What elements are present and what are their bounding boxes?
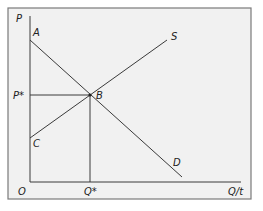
point-c-label: C — [33, 138, 40, 149]
diagram-frame — [8, 8, 251, 199]
quantity-star-label: Q* — [84, 186, 97, 197]
point-a-label: A — [32, 27, 40, 38]
supply-label: S — [171, 31, 178, 42]
supply-demand-diagram: P A B C S D P* Q* O Q/t — [0, 0, 263, 211]
price-star-label: P* — [13, 90, 24, 101]
demand-label: D — [173, 157, 181, 168]
point-b-label: B — [96, 90, 103, 101]
origin-label: O — [18, 186, 26, 197]
equilibrium-point — [88, 93, 91, 96]
x-axis-label: Q/t — [228, 186, 244, 197]
y-axis-label: P — [16, 13, 23, 24]
